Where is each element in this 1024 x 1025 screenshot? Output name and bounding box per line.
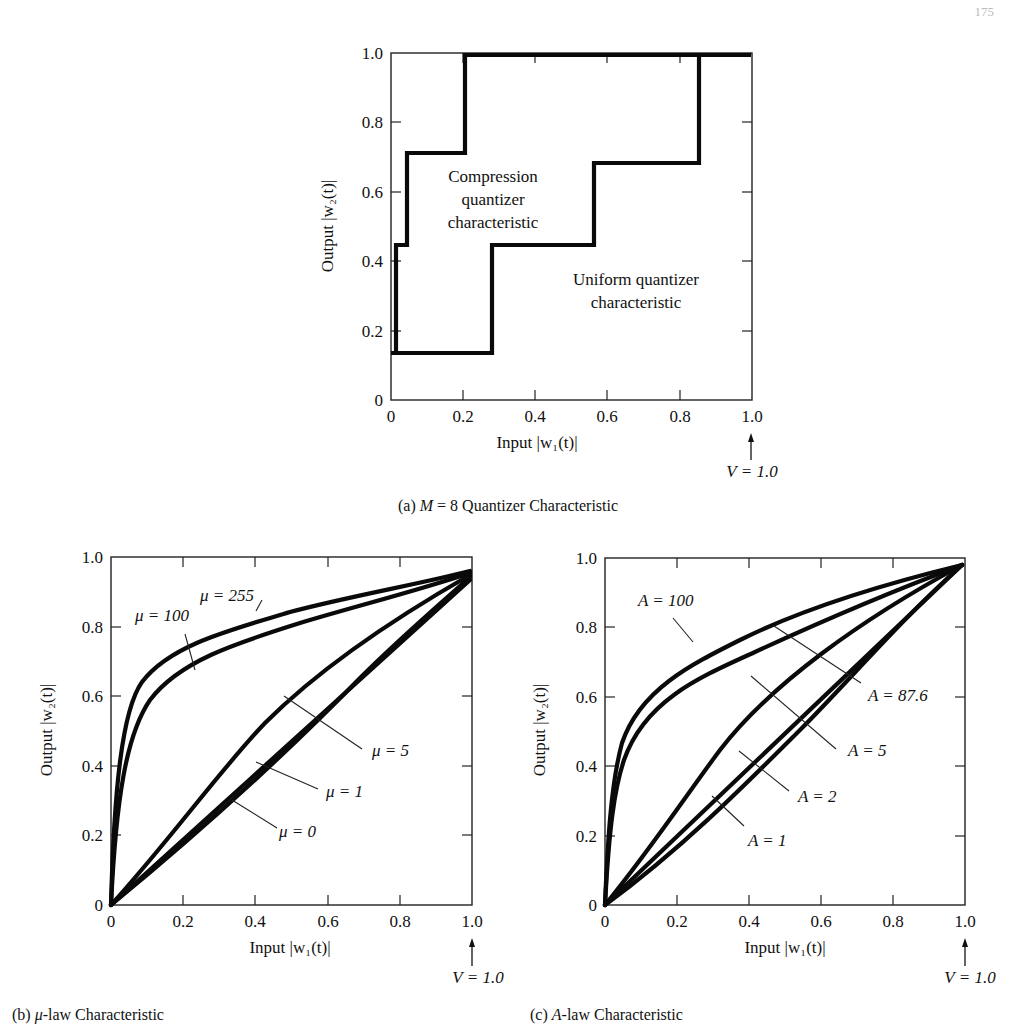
svg-text:0: 0 bbox=[387, 407, 396, 426]
y-tick-labels-c: 0 0.2 0.4 0.6 0.8 1.0 bbox=[576, 549, 598, 915]
svg-text:V = 1.0: V = 1.0 bbox=[452, 968, 504, 987]
arrow-up-icon bbox=[962, 938, 968, 947]
svg-text:0: 0 bbox=[95, 896, 104, 915]
y-axis-label-c: Output |w₂(t)| bbox=[530, 684, 549, 777]
svg-text:μ = 0: μ = 0 bbox=[278, 822, 317, 841]
chart-a-quantizer: 0 0.2 0.4 0.6 0.8 1.0 0 0.2 0.4 0.6 0.8 … bbox=[318, 44, 778, 515]
chart-b-mu-law: μ = 255 μ = 100 μ = 5 μ = 1 μ = 0 0 0.2 … bbox=[12, 548, 504, 1024]
x-axis-label-a: Input |w₁(t)| bbox=[496, 433, 577, 452]
v-marker-c: V = 1.0 bbox=[944, 938, 996, 987]
svg-text:0.8: 0.8 bbox=[362, 113, 383, 132]
svg-text:1.0: 1.0 bbox=[82, 548, 103, 567]
svg-text:0.8: 0.8 bbox=[669, 407, 690, 426]
svg-text:1.0: 1.0 bbox=[576, 549, 597, 568]
svg-text:V = 1.0: V = 1.0 bbox=[726, 462, 778, 481]
svg-text:A = 1: A = 1 bbox=[747, 831, 787, 850]
v-marker-a: V = 1.0 bbox=[726, 433, 778, 481]
svg-text:A = 5: A = 5 bbox=[847, 741, 887, 760]
caption-b: (b) μ-law Characteristic bbox=[12, 1006, 164, 1024]
v-marker-b: V = 1.0 bbox=[452, 938, 504, 987]
mu-labels: μ = 255 μ = 100 μ = 5 μ = 1 μ = 0 bbox=[134, 586, 409, 841]
svg-text:0.8: 0.8 bbox=[389, 912, 410, 931]
svg-text:A = 2: A = 2 bbox=[797, 787, 837, 806]
svg-text:0.4: 0.4 bbox=[738, 912, 760, 931]
svg-text:Compression: Compression bbox=[448, 167, 538, 186]
svg-text:0.4: 0.4 bbox=[362, 252, 384, 271]
caption-c: (c) A-law Characteristic bbox=[530, 1006, 683, 1024]
svg-text:1.0: 1.0 bbox=[741, 407, 762, 426]
svg-text:0.8: 0.8 bbox=[82, 618, 103, 637]
arrow-up-icon bbox=[469, 938, 475, 947]
svg-text:μ = 255: μ = 255 bbox=[199, 586, 254, 605]
svg-text:quantizer: quantizer bbox=[461, 190, 525, 209]
svg-text:0.8: 0.8 bbox=[882, 912, 903, 931]
svg-text:0.6: 0.6 bbox=[362, 183, 383, 202]
svg-text:0.8: 0.8 bbox=[576, 618, 597, 637]
svg-text:0.4: 0.4 bbox=[82, 757, 104, 776]
svg-text:0.2: 0.2 bbox=[362, 322, 383, 341]
svg-text:A = 87.6: A = 87.6 bbox=[867, 686, 928, 705]
x-axis-label-c: Input |w₁(t)| bbox=[744, 938, 825, 957]
svg-text:0: 0 bbox=[375, 391, 384, 410]
svg-text:μ = 100: μ = 100 bbox=[134, 606, 190, 625]
a-1-curve bbox=[605, 565, 962, 905]
compression-annotation: Compression quantizer characteristic bbox=[448, 167, 539, 232]
svg-text:0.6: 0.6 bbox=[810, 912, 831, 931]
svg-text:0.4: 0.4 bbox=[244, 912, 266, 931]
svg-text:0: 0 bbox=[601, 912, 610, 931]
mu-0-curve bbox=[111, 580, 470, 905]
y-tick-labels-a: 0 0.2 0.4 0.6 0.8 1.0 bbox=[362, 44, 384, 410]
svg-text:0.6: 0.6 bbox=[596, 407, 617, 426]
svg-text:V = 1.0: V = 1.0 bbox=[944, 968, 996, 987]
figure-canvas: 0 0.2 0.4 0.6 0.8 1.0 0 0.2 0.4 0.6 0.8 … bbox=[0, 0, 1024, 1025]
svg-text:0.6: 0.6 bbox=[82, 687, 103, 706]
x-tick-labels-c: 0 0.2 0.4 0.6 0.8 1.0 bbox=[601, 912, 976, 931]
svg-text:characteristic: characteristic bbox=[591, 293, 682, 312]
svg-text:0.4: 0.4 bbox=[524, 407, 546, 426]
svg-text:characteristic: characteristic bbox=[448, 213, 539, 232]
arrow-up-icon bbox=[748, 433, 754, 442]
svg-text:0.2: 0.2 bbox=[452, 407, 473, 426]
svg-text:0: 0 bbox=[589, 896, 598, 915]
svg-text:1.0: 1.0 bbox=[461, 912, 482, 931]
svg-text:0.2: 0.2 bbox=[666, 912, 687, 931]
chart-c-a-law: A = 100 A = 87.6 A = 5 A = 2 A = 1 0 0.2… bbox=[530, 549, 996, 1024]
y-tick-labels-b: 0 0.2 0.4 0.6 0.8 1.0 bbox=[82, 548, 104, 915]
uniform-annotation: Uniform quantizer characteristic bbox=[573, 270, 699, 312]
svg-text:μ = 1: μ = 1 bbox=[325, 782, 363, 801]
caption-a: (a) M = 8 Quantizer Characteristic bbox=[398, 497, 618, 515]
svg-text:0.2: 0.2 bbox=[172, 912, 193, 931]
svg-text:0: 0 bbox=[107, 912, 116, 931]
svg-text:0.2: 0.2 bbox=[82, 826, 103, 845]
svg-text:Uniform quantizer: Uniform quantizer bbox=[573, 270, 699, 289]
x-axis-label-b: Input |w₁(t)| bbox=[249, 938, 330, 957]
svg-text:0.6: 0.6 bbox=[576, 688, 597, 707]
svg-text:1.0: 1.0 bbox=[954, 912, 975, 931]
x-tick-labels-a: 0 0.2 0.4 0.6 0.8 1.0 bbox=[387, 407, 763, 426]
y-axis-label-a: Output |w₂(t)| bbox=[318, 180, 337, 273]
svg-text:0.4: 0.4 bbox=[576, 757, 598, 776]
svg-text:A = 100: A = 100 bbox=[637, 591, 694, 610]
svg-text:0.6: 0.6 bbox=[317, 912, 338, 931]
svg-text:0.2: 0.2 bbox=[576, 827, 597, 846]
svg-text:μ = 5: μ = 5 bbox=[371, 741, 409, 760]
a-law-labels: A = 100 A = 87.6 A = 5 A = 2 A = 1 bbox=[637, 591, 928, 850]
svg-text:1.0: 1.0 bbox=[362, 44, 383, 63]
x-tick-labels-b: 0 0.2 0.4 0.6 0.8 1.0 bbox=[107, 912, 483, 931]
y-axis-label-b: Output |w₂(t)| bbox=[37, 684, 56, 777]
